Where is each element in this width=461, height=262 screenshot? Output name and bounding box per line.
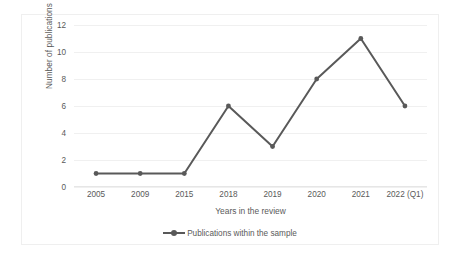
y-axis-tick-label: 10 bbox=[24, 48, 66, 57]
line-chart-figure: Number of publications 024681012 2005200… bbox=[21, 14, 439, 245]
data-point-marker[interactable] bbox=[138, 171, 143, 176]
x-axis-tick-label: 2005 bbox=[87, 190, 105, 199]
gridline bbox=[74, 187, 427, 188]
x-axis-tick-label: 2020 bbox=[308, 190, 326, 199]
data-point-marker[interactable] bbox=[403, 104, 408, 109]
x-axis-tick-label: 2018 bbox=[219, 190, 237, 199]
y-axis-tick-label: 0 bbox=[24, 183, 66, 192]
x-axis-tick-label: 2015 bbox=[175, 190, 193, 199]
data-point-marker[interactable] bbox=[314, 77, 319, 82]
data-point-marker[interactable] bbox=[358, 36, 363, 41]
y-axis-tick-label: 2 bbox=[24, 156, 66, 165]
x-axis-tick-label: 2022 (Q1) bbox=[387, 190, 424, 199]
series-publications-within-the-sample bbox=[74, 25, 427, 187]
x-axis-tick-label: 2009 bbox=[131, 190, 149, 199]
plot-area bbox=[74, 25, 427, 187]
data-point-marker[interactable] bbox=[182, 171, 187, 176]
y-axis-tick-label: 4 bbox=[24, 129, 66, 138]
y-axis-tick-label: 8 bbox=[24, 75, 66, 84]
chart-legend: Publications within the sample bbox=[22, 228, 438, 238]
y-axis-tick-label: 6 bbox=[24, 102, 66, 111]
data-point-marker[interactable] bbox=[226, 104, 231, 109]
data-point-marker[interactable] bbox=[94, 171, 99, 176]
x-axis-tick-labels: 20052009201520182019202020212022 (Q1) bbox=[74, 190, 427, 204]
data-point-marker[interactable] bbox=[270, 144, 275, 149]
x-axis-tick-label: 2019 bbox=[263, 190, 281, 199]
legend-item-label: Publications within the sample bbox=[187, 229, 297, 238]
x-axis-title: Years in the review bbox=[74, 206, 427, 216]
y-axis-tick-label: 12 bbox=[24, 21, 66, 30]
legend-item-publications[interactable]: Publications within the sample bbox=[163, 228, 297, 238]
series-line bbox=[96, 39, 405, 174]
x-axis-tick-label: 2021 bbox=[352, 190, 370, 199]
y-axis-tick-labels: 024681012 bbox=[22, 25, 72, 187]
line-marker-icon bbox=[163, 228, 185, 238]
